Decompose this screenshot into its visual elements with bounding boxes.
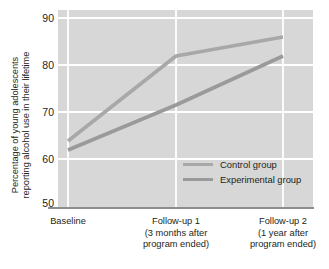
legend-item-experimental-group: Experimental group xyxy=(183,173,308,186)
x-tick-followup1: Follow-up 1 (3 months after program ende… xyxy=(143,216,209,251)
plot-area: Control group Experimental group xyxy=(58,10,313,207)
y-tick-80: 80 xyxy=(32,59,54,71)
y-axis-title-line-1: Percentage of young adolescents xyxy=(10,57,22,193)
x-axis-tick-labels: Baseline Follow-up 1 (3 months after pro… xyxy=(0,216,329,266)
x-tick-followup1-line-3: program ended) xyxy=(143,239,209,251)
y-tick-90: 90 xyxy=(32,12,54,24)
x-tick-followup2-line-2: (1 year after xyxy=(250,228,316,240)
legend-swatch-experimental-group xyxy=(183,178,213,181)
legend-label-experimental-group: Experimental group xyxy=(220,174,301,185)
x-tick-followup1-line-2: (3 months after xyxy=(143,228,209,240)
legend: Control group Experimental group xyxy=(183,158,308,188)
x-tick-followup1-line-1: Follow-up 1 xyxy=(143,216,209,228)
y-tick-70: 70 xyxy=(32,106,54,118)
y-tick-60: 60 xyxy=(32,153,54,165)
x-axis-line xyxy=(48,207,314,209)
legend-label-control-group: Control group xyxy=(220,159,277,170)
x-tick-followup2: Follow-up 2 (1 year after program ended) xyxy=(250,216,316,251)
legend-swatch-control-group xyxy=(183,163,213,166)
x-tick-followup2-line-3: program ended) xyxy=(250,239,316,251)
legend-item-control-group: Control group xyxy=(183,158,308,171)
x-tick-baseline: Baseline xyxy=(50,216,86,228)
x-tick-baseline-line-1: Baseline xyxy=(50,216,86,228)
x-tick-followup2-line-1: Follow-up 2 xyxy=(250,216,316,228)
line-chart-figure: Percentage of young adolescents reportin… xyxy=(0,0,329,269)
